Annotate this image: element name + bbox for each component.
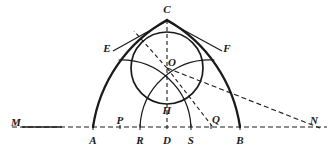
point-label-h: H <box>163 105 172 116</box>
point-label-r: R <box>136 135 144 146</box>
geometric-figure: M A P R D S Q B N C E F O H <box>0 0 333 154</box>
figure-canvas <box>0 0 333 154</box>
point-label-q: Q <box>212 114 220 125</box>
chord-e-to-c <box>113 21 167 51</box>
point-label-n: N <box>310 115 318 126</box>
point-label-o: O <box>168 57 176 68</box>
arc-s-to-e <box>119 60 191 127</box>
point-label-b: B <box>236 135 244 146</box>
point-label-d: D <box>163 135 171 146</box>
point-label-s: S <box>188 135 194 146</box>
chord-c-to-f <box>167 21 222 51</box>
point-label-m: M <box>11 117 21 128</box>
point-label-c: C <box>163 4 171 15</box>
point-label-e: E <box>103 43 111 54</box>
point-label-a: A <box>89 135 97 146</box>
point-label-p: P <box>117 115 124 126</box>
arc-b-to-c <box>167 20 240 127</box>
point-label-f: F <box>223 43 231 54</box>
arc-a-to-c <box>93 20 167 127</box>
